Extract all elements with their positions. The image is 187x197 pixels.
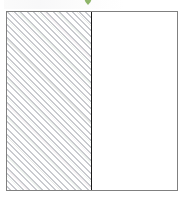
empty-right-panel (92, 12, 177, 190)
figure-frame (6, 11, 178, 191)
cropped-header-band (4, 0, 124, 9)
green-chevron-icon (78, 0, 98, 6)
hatched-left-panel (7, 12, 92, 190)
